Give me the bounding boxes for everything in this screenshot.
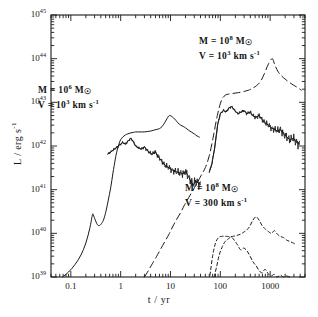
y-tick-label-45: 1045 — [2, 9, 46, 19]
annotation-top-right-velocity: V = 103 km s-1 — [199, 50, 260, 63]
y-tick-label-39: 1039 — [2, 271, 46, 281]
x-tick-label-1: 1 — [101, 281, 141, 291]
x-axis-label: t / yr — [0, 294, 318, 305]
curve-0 — [62, 115, 199, 277]
annotation-top-right-mass: M = 108 M☉ — [199, 35, 260, 50]
annotation-left-model: M = 106 M☉ V = 103 km s-1 — [38, 84, 99, 111]
x-tick-label-100: 100 — [200, 281, 240, 291]
curve-3-noise — [209, 106, 299, 172]
y-axis-label: L / erg s-1 — [12, 89, 23, 199]
annotation-top-right-model: M = 108 M☉ V = 103 km s-1 — [199, 35, 260, 62]
annotation-left-velocity: V = 103 km s-1 — [38, 99, 99, 112]
curve-5 — [214, 237, 290, 277]
y-tick-label-40: 1040 — [2, 227, 46, 237]
x-tick-label-1000: 1000 — [250, 281, 290, 291]
y-tick-label-44: 1044 — [2, 53, 46, 63]
plot-area — [0, 0, 318, 317]
y-tick-label-41: 1041 — [2, 184, 46, 194]
axes-frame — [51, 15, 305, 277]
annotation-lower-right-mass: M = 108 M☉ — [185, 182, 247, 197]
y-tick-label-42: 1042 — [2, 140, 46, 150]
axis-ticks — [51, 15, 305, 277]
x-tick-label-10: 10 — [150, 281, 190, 291]
annotation-lower-right-velocity: V = 300 km s-1 — [185, 197, 247, 210]
curve-1 — [108, 138, 201, 184]
x-tick-label-0.1: 0.1 — [51, 281, 91, 291]
figure-canvas: 1039104010411042104310441045 0.111010010… — [0, 0, 318, 317]
annotation-lower-right-model: M = 108 M☉ V = 300 km s-1 — [185, 182, 247, 209]
annotation-left-mass: M = 106 M☉ — [38, 84, 99, 99]
